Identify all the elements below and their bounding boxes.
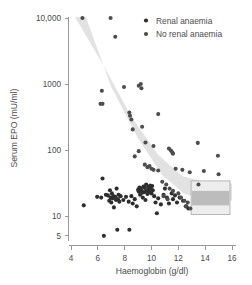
data-point	[171, 197, 175, 201]
y-tick-label: 10,000	[36, 14, 61, 23]
x-tick-label: 4	[69, 254, 74, 263]
data-point	[202, 169, 206, 173]
series-legend: Renal anaemia No renal anaemia	[144, 16, 223, 40]
data-point	[159, 202, 163, 206]
data-point	[100, 102, 104, 106]
data-point	[166, 197, 170, 201]
data-point	[102, 234, 106, 238]
data-point	[124, 195, 128, 199]
data-point	[121, 198, 125, 202]
data-point	[137, 149, 141, 153]
x-axis-title: Haemoglobin (g/dl)	[116, 266, 189, 276]
data-point	[156, 168, 160, 172]
data-point	[164, 182, 168, 186]
data-point	[186, 200, 190, 204]
data-point	[112, 205, 116, 209]
data-point	[216, 154, 220, 158]
data-point	[128, 114, 132, 118]
data-point	[152, 194, 156, 198]
data-point	[117, 200, 121, 204]
data-point	[196, 182, 200, 186]
data-point	[162, 194, 166, 198]
legend-label-no-renal-anaemia: No renal anaemia	[156, 29, 222, 39]
legend-label-renal-anaemia: Renal anaemia	[156, 16, 213, 26]
data-point	[151, 188, 155, 192]
scatter-plot-svg: 510100100010,000 Serum EPO (mU/ml) 46810…	[0, 0, 252, 285]
data-point	[122, 85, 126, 89]
data-point	[127, 200, 131, 204]
data-point	[143, 140, 147, 144]
data-point	[155, 211, 159, 215]
x-tick-label: 8	[122, 254, 127, 263]
data-point	[100, 89, 104, 93]
data-point	[131, 127, 135, 131]
data-point	[175, 200, 179, 204]
data-point	[179, 196, 183, 200]
data-point	[135, 204, 139, 208]
data-point	[150, 184, 154, 188]
data-point	[140, 125, 144, 129]
data-point	[109, 16, 113, 20]
y-axis: 510100100010,000 Serum EPO (mU/ml)	[9, 14, 69, 241]
expected-response-band	[75, 17, 232, 201]
data-point	[160, 180, 164, 184]
y-tick-label: 1000	[43, 80, 62, 89]
data-point	[171, 189, 175, 193]
x-tick-label: 12	[174, 254, 184, 263]
data-point	[196, 141, 200, 145]
x-tick-label: 10	[147, 254, 157, 263]
legend-marker-renal-anaemia	[144, 18, 148, 22]
data-point	[163, 187, 167, 191]
data-point	[156, 196, 160, 200]
y-axis-ticks: 510100100010,000	[36, 14, 69, 241]
x-axis-ticks: 46810121416	[69, 246, 237, 264]
data-point	[109, 200, 113, 204]
x-axis: 46810121416 Haemoglobin (g/dl)	[69, 246, 237, 277]
y-tick-label: 5	[56, 232, 61, 241]
x-tick-label: 14	[201, 254, 211, 263]
data-point	[188, 206, 192, 210]
data-point	[80, 16, 84, 20]
data-point	[133, 154, 137, 158]
data-point	[115, 187, 119, 191]
data-point	[176, 191, 180, 195]
data-point	[171, 152, 175, 156]
data-point	[139, 82, 143, 86]
data-point	[156, 112, 160, 116]
data-point	[139, 86, 143, 90]
data-point	[151, 144, 155, 148]
data-point	[151, 168, 155, 172]
y-tick-label: 10	[52, 212, 62, 221]
data-point	[188, 170, 192, 174]
data-point	[119, 194, 123, 198]
data-point	[180, 168, 184, 172]
data-point	[143, 198, 147, 202]
x-tick-label: 6	[96, 254, 101, 263]
x-tick-label: 16	[227, 254, 237, 263]
data-point	[82, 203, 86, 207]
data-point	[115, 228, 119, 232]
data-point	[153, 200, 157, 204]
series-renal-anaemia-points	[82, 176, 191, 237]
y-tick-label: 100	[47, 146, 61, 155]
data-point	[95, 195, 99, 199]
data-point	[131, 201, 135, 205]
data-point	[113, 35, 117, 39]
data-point	[167, 201, 171, 205]
data-point	[184, 204, 188, 208]
data-point	[99, 196, 103, 200]
normal-reference-range-box	[191, 181, 230, 215]
data-point	[133, 197, 137, 201]
data-point	[100, 176, 104, 180]
data-point	[168, 187, 172, 191]
data-point	[217, 172, 221, 176]
data-point	[127, 228, 131, 232]
data-point	[174, 167, 178, 171]
chart-figure: 510100100010,000 Serum EPO (mU/ml) 46810…	[0, 0, 252, 285]
data-point	[129, 194, 133, 198]
data-point	[129, 117, 133, 121]
y-axis-title: Serum EPO (mU/ml)	[9, 88, 19, 167]
legend-marker-no-renal-anaemia	[144, 32, 148, 36]
